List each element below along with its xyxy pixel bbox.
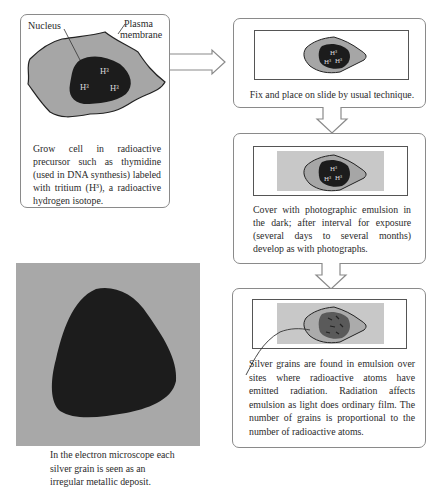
svg-text:H³: H³ <box>100 66 109 76</box>
step3-caption: Cover with photographic emulsion in the … <box>253 203 411 255</box>
plasma-membrane-label-2: membrane <box>120 29 162 40</box>
svg-text:H³: H³ <box>330 49 337 57</box>
plasma-membrane-label-1: Plasma <box>124 18 153 29</box>
cell-diagram-emulsion: H³ H³ H³ <box>300 152 370 194</box>
step2-caption: Fix and place on slide by usual techniqu… <box>242 88 422 102</box>
svg-text:H³: H³ <box>335 174 342 182</box>
arrow-right-icon <box>170 50 235 80</box>
silver-grain-shape <box>16 263 200 446</box>
cell-diagram-fixed: H³ H³ H³ <box>300 34 370 76</box>
step1-caption: Grow cell in radioactive precursor such … <box>33 142 161 207</box>
svg-text:H³: H³ <box>110 83 119 93</box>
step4-caption: Silver grains are found in emulsion over… <box>249 357 415 439</box>
svg-text:H³: H³ <box>80 82 89 92</box>
svg-text:H³: H³ <box>324 175 331 183</box>
em-caption: In the electron microscope each silver g… <box>50 448 178 489</box>
nucleus-label: Nucleus <box>28 20 61 31</box>
svg-text:H³: H³ <box>335 57 342 65</box>
svg-text:H³: H³ <box>330 165 337 173</box>
svg-text:H³: H³ <box>324 58 331 66</box>
